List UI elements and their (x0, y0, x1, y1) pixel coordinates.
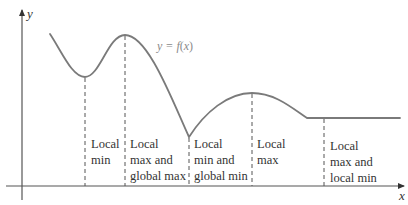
svg-text:max: max (257, 153, 279, 167)
svg-text:max and: max and (130, 153, 173, 167)
svg-text:max and: max and (330, 155, 373, 169)
svg-text:global min: global min (194, 169, 249, 183)
region-label-local-max: Local max (257, 137, 286, 167)
svg-text:global max: global max (130, 169, 187, 183)
svg-text:local min: local min (330, 171, 378, 185)
svg-text:Local: Local (257, 137, 286, 151)
region-label-local-max-global-max: Local max and global max (130, 137, 187, 183)
region-label-local-min-global-min: Local min and global min (194, 137, 249, 183)
function-curve (50, 34, 400, 137)
region-label-local-min: Local min (91, 137, 120, 167)
svg-text:Local: Local (330, 139, 359, 153)
extrema-diagram: y x y = f(x) Local min Local max and glo… (0, 0, 408, 205)
x-axis-label: x (398, 188, 405, 203)
svg-text:Local: Local (91, 137, 120, 151)
region-label-local-max-local-min: Local max and local min (330, 139, 378, 185)
svg-text:min and: min and (194, 153, 235, 167)
svg-text:min: min (91, 153, 111, 167)
svg-text:Local: Local (130, 137, 159, 151)
svg-text:Local: Local (194, 137, 223, 151)
function-label: y = f(x) (156, 39, 193, 53)
y-axis-label: y (25, 6, 33, 21)
